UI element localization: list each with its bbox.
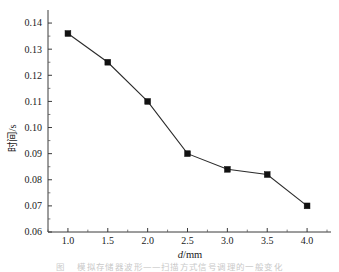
- x-tick-label: 3.0: [221, 235, 234, 246]
- x-axis-tick-labels: 1.01.52.02.53.03.54.0: [62, 235, 314, 246]
- line-chart: 0.060.070.080.090.100.110.120.130.14 1.0…: [0, 0, 339, 272]
- data-point-marker: [65, 31, 71, 37]
- y-tick-label: 0.11: [25, 96, 42, 107]
- data-point-marker: [224, 166, 230, 172]
- data-series-line: [68, 34, 307, 206]
- y-axis-title-cjk: 时间: [6, 132, 18, 152]
- x-tick-label: 3.5: [261, 235, 274, 246]
- x-tick-label: 4.0: [301, 235, 314, 246]
- x-axis-ticks: [48, 228, 327, 232]
- x-tick-label: 2.0: [141, 235, 154, 246]
- y-tick-label: 0.12: [25, 70, 43, 81]
- y-tick-label: 0.06: [25, 226, 43, 237]
- y-axis-tick-labels: 0.060.070.080.090.100.110.120.130.14: [25, 17, 43, 237]
- data-point-marker: [185, 151, 191, 157]
- x-tick-label: 1.5: [102, 235, 115, 246]
- y-axis-ticks: [48, 23, 52, 232]
- data-point-marker: [105, 59, 111, 65]
- svg-text:d/mm: d/mm: [178, 249, 203, 260]
- data-point-marker: [304, 203, 310, 209]
- x-tick-label: 1.0: [62, 235, 75, 246]
- y-tick-label: 0.07: [25, 200, 43, 211]
- y-tick-label: 0.09: [25, 148, 43, 159]
- data-point-marker: [145, 99, 151, 105]
- data-point-marker: [264, 172, 270, 178]
- y-axis-title-unit: /s: [7, 124, 18, 131]
- y-tick-label: 0.14: [25, 17, 43, 28]
- y-tick-label: 0.10: [25, 122, 43, 133]
- y-tick-label: 0.13: [25, 44, 43, 55]
- figure-container: 0.060.070.080.090.100.110.120.130.14 1.0…: [0, 0, 339, 272]
- y-axis-title: 时间/s: [6, 124, 18, 151]
- x-axis-title-unit: /mm: [183, 249, 202, 260]
- y-tick-label: 0.08: [25, 174, 43, 185]
- axis-spines: [48, 10, 331, 232]
- x-axis-title: d/mm: [178, 249, 203, 260]
- x-tick-label: 2.5: [181, 235, 194, 246]
- svg-text:时间/s: 时间/s: [6, 124, 18, 151]
